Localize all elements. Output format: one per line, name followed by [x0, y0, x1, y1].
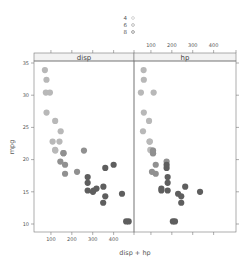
- data-point-cyl-4: [151, 90, 157, 96]
- panel-frame: disp hp: [34, 53, 236, 232]
- x-tick-label-hp: 100: [146, 42, 156, 48]
- data-point-cyl-8: [102, 193, 108, 199]
- data-point-cyl-6: [74, 169, 80, 175]
- x-tick-label-disp: 300: [88, 236, 98, 242]
- data-point-cyl-4: [141, 109, 147, 115]
- legend-swatch-6: [132, 24, 135, 27]
- legend-swatch-8: [132, 31, 135, 34]
- legend-label-8: 8: [124, 29, 128, 35]
- x-tick-label-disp: 400: [109, 236, 119, 242]
- data-point-cyl-8: [164, 162, 170, 168]
- data-point-cyl-4: [43, 109, 49, 115]
- scatter-chart: 4 6 8 100200300400 disp hp 101520253035 …: [0, 0, 250, 270]
- x-axis-label: disp + hp: [119, 249, 150, 257]
- data-point-cyl-6: [153, 171, 159, 177]
- legend-swatches: [132, 17, 135, 34]
- data-point-cyl-4: [141, 67, 147, 73]
- y-tick-label: 25: [23, 124, 29, 130]
- data-point-cyl-6: [57, 158, 63, 164]
- data-point-cyl-8: [100, 200, 106, 206]
- y-tick-label: 15: [23, 189, 29, 195]
- legend-label-6: 6: [124, 22, 128, 28]
- y-tick-label: 20: [23, 156, 29, 162]
- left-y-axis: 101520253035: [23, 60, 34, 227]
- x-tick-label-hp: 400: [209, 42, 219, 48]
- top-x-axis: 100200300400: [51, 42, 236, 53]
- strip-label-disp: disp: [77, 54, 92, 62]
- data-point-cyl-8: [165, 180, 171, 186]
- data-point-cyl-4: [58, 128, 64, 134]
- x-tick-label-disp: 200: [67, 236, 77, 242]
- data-point-cyl-8: [119, 191, 125, 197]
- y-axis-label: mpg: [8, 140, 16, 155]
- data-point-cyl-6: [150, 147, 156, 153]
- data-point-cyl-6: [60, 150, 66, 156]
- data-point-cyl-8: [197, 189, 203, 195]
- points-hp-panel: [138, 67, 203, 225]
- data-point-cyl-8: [85, 174, 91, 180]
- panel-disp: [34, 61, 134, 232]
- data-point-cyl-8: [178, 200, 184, 206]
- data-point-cyl-4: [42, 67, 48, 73]
- data-point-cyl-8: [175, 191, 181, 197]
- data-point-cyl-6: [153, 162, 159, 168]
- strip-label-hp: hp: [181, 54, 190, 62]
- y-tick-label: 10: [23, 221, 29, 227]
- data-point-cyl-8: [85, 180, 91, 186]
- data-point-cyl-6: [81, 147, 87, 153]
- x-tick-label-hp: 300: [188, 42, 198, 48]
- data-point-cyl-8: [165, 187, 171, 193]
- data-point-cyl-4: [50, 138, 56, 144]
- right-y-axis: [236, 63, 239, 224]
- data-point-cyl-8: [158, 187, 164, 193]
- data-point-cyl-4: [147, 138, 153, 144]
- data-point-cyl-4: [138, 90, 144, 96]
- data-point-cyl-8: [85, 187, 91, 193]
- data-point-cyl-8: [102, 165, 108, 171]
- data-point-cyl-8: [165, 174, 171, 180]
- bottom-x-axis: 100200300400: [46, 232, 213, 242]
- data-point-cyl-4: [47, 90, 53, 96]
- data-point-cyl-4: [146, 118, 152, 124]
- panel-hp: [134, 61, 236, 232]
- points-disp-panel: [42, 67, 132, 225]
- data-point-cyl-4: [141, 77, 147, 83]
- data-point-cyl-8: [172, 218, 178, 224]
- data-point-cyl-8: [111, 162, 117, 168]
- data-point-cyl-8: [182, 184, 188, 190]
- y-tick-label: 35: [23, 60, 29, 66]
- x-tick-label-disp: 100: [46, 236, 56, 242]
- legend: 4 6 8: [124, 15, 135, 35]
- data-point-cyl-6: [62, 171, 68, 177]
- legend-label-4: 4: [124, 15, 128, 21]
- data-point-cyl-4: [43, 77, 49, 83]
- data-point-cyl-4: [56, 138, 62, 144]
- data-point-cyl-4: [52, 118, 58, 124]
- x-tick-label-hp: 200: [167, 42, 177, 48]
- data-point-cyl-8: [100, 184, 106, 190]
- data-point-cyl-8: [90, 189, 96, 195]
- legend-swatch-4: [132, 17, 135, 20]
- y-tick-label: 30: [23, 92, 29, 98]
- data-point-cyl-4: [140, 128, 146, 134]
- data-point-cyl-8: [123, 218, 129, 224]
- data-point-cyl-4: [52, 147, 58, 153]
